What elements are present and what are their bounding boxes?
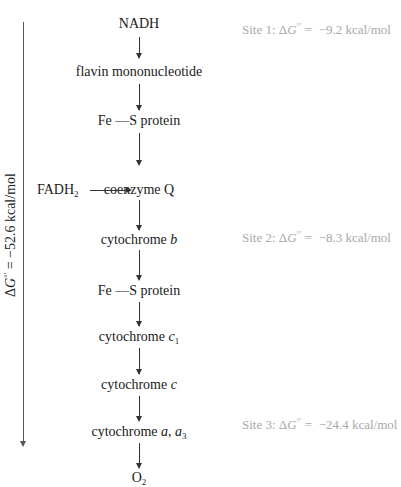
node-nadh: NADH bbox=[119, 16, 159, 32]
node-cytochrome-b: cytochrome b bbox=[101, 232, 178, 248]
site-1-label: Site 1: ΔG°′ = −9.2 kcal/mol bbox=[242, 22, 391, 38]
arrow-right-icon bbox=[90, 190, 130, 191]
arrow-down-icon bbox=[139, 443, 140, 468]
arrow-down-icon bbox=[139, 348, 140, 374]
arrow-down-icon bbox=[139, 250, 140, 280]
site-3-label: Site 3: ΔG°′ = −24.4 kcal/mol bbox=[242, 417, 397, 433]
arrow-down-icon bbox=[139, 200, 140, 230]
arrow-down-icon bbox=[139, 302, 140, 326]
fadh2-input: FADH2 bbox=[37, 182, 79, 198]
total-energy-label: ΔG°′ = −52.6 kcal/mol bbox=[3, 173, 19, 297]
arrow-down-icon bbox=[139, 37, 140, 58]
node-cytochrome-a-a3: cytochrome a, a3 bbox=[91, 424, 186, 440]
site-2-label: Site 2: ΔG°′ = −8.3 kcal/mol bbox=[242, 230, 391, 246]
arrow-down-icon bbox=[139, 396, 140, 421]
node-oxygen: O2 bbox=[132, 470, 147, 486]
node-flavin-mononucleotide: flavin mononucleotide bbox=[76, 64, 202, 80]
node-fe-s-protein-2: Fe —S protein bbox=[98, 283, 180, 299]
arrow-down-icon bbox=[139, 84, 140, 110]
arrow-down-icon bbox=[139, 133, 140, 165]
total-energy-arrow bbox=[23, 22, 24, 445]
node-cytochrome-c: cytochrome c bbox=[101, 377, 177, 393]
node-fe-s-protein-1: Fe —S protein bbox=[98, 113, 180, 129]
node-cytochrome-c1: cytochrome c1 bbox=[99, 329, 179, 345]
